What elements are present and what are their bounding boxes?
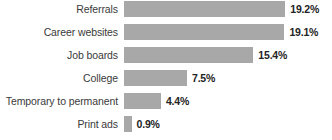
bar-area: 7.5% <box>124 70 332 86</box>
category-label: Career websites <box>0 24 124 40</box>
bar-row: Print ads0.9% <box>0 116 332 132</box>
bar-row: College7.5% <box>0 70 332 86</box>
bar-row: Referrals19.2% <box>0 1 332 17</box>
category-label: Referrals <box>0 1 124 17</box>
value-label: 7.5% <box>187 70 215 86</box>
value-label: 0.9% <box>132 116 160 132</box>
bar-row: Career websites19.1% <box>0 24 332 40</box>
value-label: 19.1% <box>284 24 318 40</box>
bar <box>124 24 284 40</box>
bar <box>124 116 132 132</box>
bar <box>124 47 253 63</box>
bar-row: Job boards15.4% <box>0 47 332 63</box>
value-label: 4.4% <box>161 93 189 109</box>
bar <box>124 93 161 109</box>
bar-chart: Referrals19.2%Career websites19.1%Job bo… <box>0 0 332 140</box>
chart-rows: Referrals19.2%Career websites19.1%Job bo… <box>0 1 332 132</box>
bar <box>124 70 187 86</box>
bar-area: 4.4% <box>124 93 332 109</box>
bar-area: 19.1% <box>124 24 332 40</box>
bar-area: 15.4% <box>124 47 332 63</box>
bar-area: 19.2% <box>124 1 332 17</box>
value-label: 19.2% <box>285 1 319 17</box>
bar <box>124 1 285 17</box>
category-label: Job boards <box>0 47 124 63</box>
value-label: 15.4% <box>253 47 287 63</box>
bar-area: 0.9% <box>124 116 332 132</box>
category-label: College <box>0 70 124 86</box>
category-label: Temporary to permanent <box>0 93 124 109</box>
category-label: Print ads <box>0 116 124 132</box>
bar-row: Temporary to permanent4.4% <box>0 93 332 109</box>
